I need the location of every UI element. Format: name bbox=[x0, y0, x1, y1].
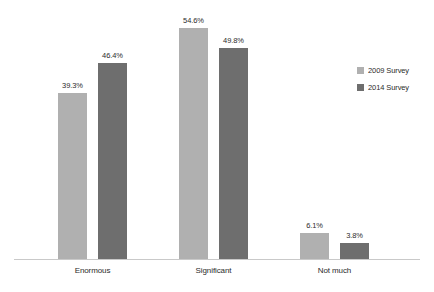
bar-value-label: 3.8% bbox=[346, 231, 363, 240]
bar-value-label: 54.6% bbox=[183, 16, 204, 25]
category-label-not-much: Not much bbox=[300, 266, 369, 276]
legend-swatch-icon bbox=[357, 84, 364, 91]
legend: 2009 Survey 2014 Survey bbox=[357, 64, 429, 98]
bar-2014-enormous[interactable]: 46.4% bbox=[98, 63, 127, 259]
bar-value-label: 6.1% bbox=[306, 221, 323, 230]
bar-group-not-much: 6.1% 3.8% bbox=[300, 27, 369, 259]
bar-value-label: 46.4% bbox=[102, 51, 123, 60]
legend-label: 2009 Survey bbox=[368, 66, 409, 75]
bar-group-enormous: 39.3% 46.4% bbox=[58, 27, 127, 259]
bar-2014-not-much[interactable]: 3.8% bbox=[340, 243, 369, 259]
category-label-enormous: Enormous bbox=[58, 266, 127, 276]
bar-2009-not-much[interactable]: 6.1% bbox=[300, 233, 329, 259]
category-label-significant: Significant bbox=[179, 266, 248, 276]
bar-2014-significant[interactable]: 49.8% bbox=[219, 48, 248, 259]
legend-swatch-icon bbox=[357, 67, 364, 74]
bar-value-label: 39.3% bbox=[62, 81, 83, 90]
legend-label: 2014 Survey bbox=[368, 83, 409, 92]
bar-2009-significant[interactable]: 54.6% bbox=[179, 28, 208, 259]
legend-item-2014[interactable]: 2014 Survey bbox=[357, 81, 429, 94]
bar-group-significant: 54.6% 49.8% bbox=[179, 27, 248, 259]
bar-value-label: 49.8% bbox=[223, 36, 244, 45]
legend-item-2009[interactable]: 2009 Survey bbox=[357, 64, 429, 77]
x-axis-baseline bbox=[14, 259, 420, 260]
plot-area: 39.3% 46.4% Enormous 54.6% 49.8% Signifi… bbox=[0, 0, 434, 292]
grouped-bar-chart: 39.3% 46.4% Enormous 54.6% 49.8% Signifi… bbox=[0, 0, 434, 292]
bar-2009-enormous[interactable]: 39.3% bbox=[58, 93, 87, 259]
